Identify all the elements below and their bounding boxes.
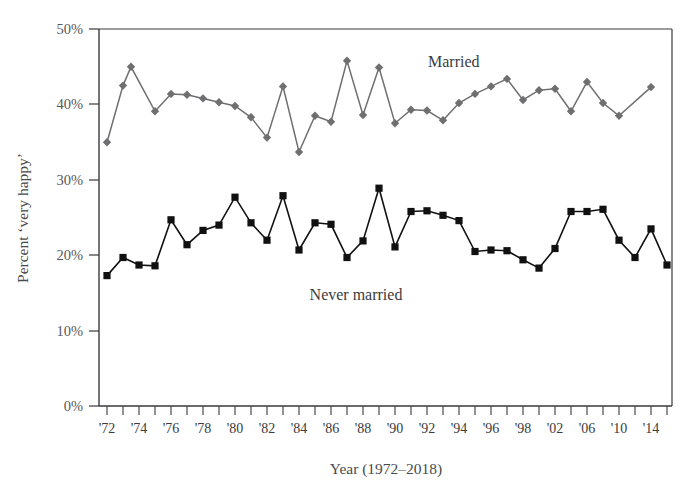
y-tick-label-50: 50% bbox=[56, 21, 83, 37]
data-point-30 bbox=[583, 208, 590, 215]
data-point-2 bbox=[135, 261, 142, 268]
data-point-14 bbox=[327, 221, 334, 228]
data-point-3 bbox=[151, 262, 158, 269]
x-tick-label-15: '06 bbox=[579, 421, 596, 436]
x-tick-label-3: '78 bbox=[195, 421, 212, 436]
data-point-24 bbox=[487, 246, 494, 253]
x-tick-label-10: '92 bbox=[419, 421, 436, 436]
data-point-23 bbox=[471, 248, 478, 255]
data-point-31 bbox=[599, 206, 606, 213]
data-point-7 bbox=[215, 222, 222, 229]
happiness-line-chart: 50% 40% 30% 20% 10% 0% '72'74'76'78'80'8… bbox=[0, 0, 694, 493]
data-point-13 bbox=[311, 219, 318, 226]
data-point-26 bbox=[519, 256, 526, 263]
chart-page: 50% 40% 30% 20% 10% 0% '72'74'76'78'80'8… bbox=[0, 0, 694, 493]
chart-background bbox=[0, 0, 694, 493]
data-point-4 bbox=[167, 216, 174, 223]
data-point-34 bbox=[647, 225, 654, 232]
data-point-29 bbox=[567, 208, 574, 215]
data-point-15 bbox=[343, 254, 350, 261]
x-tick-label-12: '96 bbox=[483, 421, 500, 436]
y-tick-label-20: 20% bbox=[56, 247, 83, 263]
x-tick-label-16: '10 bbox=[611, 421, 628, 436]
data-point-21 bbox=[439, 212, 446, 219]
data-point-5 bbox=[183, 241, 190, 248]
x-tick-label-14: '02 bbox=[547, 421, 564, 436]
data-point-25 bbox=[503, 247, 510, 254]
data-point-18 bbox=[391, 243, 398, 250]
x-tick-label-0: '72 bbox=[99, 421, 116, 436]
married-series-label: Married bbox=[428, 53, 480, 70]
x-tick-label-2: '76 bbox=[163, 421, 180, 436]
data-point-16 bbox=[359, 237, 366, 244]
data-point-0 bbox=[103, 272, 110, 279]
x-tick-label-6: '84 bbox=[291, 421, 308, 436]
x-tick-label-13: '98 bbox=[515, 421, 532, 436]
data-point-6 bbox=[199, 227, 206, 234]
y-tick-label-40: 40% bbox=[56, 96, 83, 112]
y-axis-title: Percent ‘very happy’ bbox=[14, 153, 31, 283]
data-point-28 bbox=[551, 245, 558, 252]
y-tick-label-0: 0% bbox=[64, 398, 83, 414]
data-point-32 bbox=[615, 237, 622, 244]
data-point-9 bbox=[247, 219, 254, 226]
data-point-27 bbox=[535, 265, 542, 272]
x-tick-label-4: '80 bbox=[227, 421, 244, 436]
data-point-17 bbox=[375, 185, 382, 192]
y-tick-label-10: 10% bbox=[56, 323, 83, 339]
y-tick-label-30: 30% bbox=[56, 172, 83, 188]
x-tick-label-1: '74 bbox=[131, 421, 148, 436]
data-point-8 bbox=[231, 194, 238, 201]
data-point-10 bbox=[263, 237, 270, 244]
x-tick-label-7: '86 bbox=[323, 421, 340, 436]
data-point-33 bbox=[631, 254, 638, 261]
data-point-20 bbox=[423, 207, 430, 214]
x-axis-title: Year (1972–2018) bbox=[330, 460, 443, 478]
data-point-19 bbox=[407, 208, 414, 215]
data-point-11 bbox=[279, 192, 286, 199]
x-tick-label-17: '14 bbox=[643, 421, 660, 436]
x-tick-label-11: '94 bbox=[451, 421, 468, 436]
x-tick-label-8: '88 bbox=[355, 421, 372, 436]
never-married-series-label: Never married bbox=[310, 286, 403, 303]
x-tick-label-5: '82 bbox=[259, 421, 276, 436]
data-point-35 bbox=[663, 261, 670, 268]
data-point-1 bbox=[119, 254, 126, 261]
data-point-22 bbox=[455, 217, 462, 224]
data-point-12 bbox=[295, 246, 302, 253]
x-tick-label-9: '90 bbox=[387, 421, 404, 436]
